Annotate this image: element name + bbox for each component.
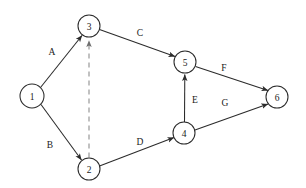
edge-f-line	[196, 67, 269, 91]
node-4-label: 4	[182, 129, 187, 139]
edge-a-line	[41, 36, 83, 88]
edge-label-g: G	[222, 98, 229, 108]
edge-label-e: E	[192, 95, 198, 105]
network-diagram: 1 2 3 4 5 6	[0, 0, 306, 188]
edge-labels-layer: A B C D E F G	[47, 28, 229, 150]
node-3[interactable]: 3	[78, 15, 100, 37]
edge-label-f: F	[221, 63, 226, 73]
node-4[interactable]: 4	[173, 122, 195, 144]
node-6[interactable]: 6	[266, 86, 288, 108]
edge-label-d: D	[137, 137, 144, 147]
edge-label-a: A	[49, 47, 56, 57]
node-5[interactable]: 5	[174, 51, 196, 73]
network-diagram-canvas: 1 2 3 4 5 6	[0, 0, 306, 188]
edges-layer	[41, 30, 269, 167]
edge-g-line	[195, 104, 268, 130]
node-6-label: 6	[275, 93, 280, 103]
edge-label-c: C	[137, 28, 143, 38]
edge-b-line	[41, 105, 82, 161]
edge-label-b: B	[47, 140, 53, 150]
node-1-label: 1	[30, 92, 35, 102]
node-2[interactable]: 2	[78, 158, 100, 180]
node-3-label: 3	[87, 22, 92, 32]
node-1[interactable]: 1	[20, 84, 44, 108]
nodes-layer: 1 2 3 4 5 6	[20, 15, 288, 180]
node-5-label: 5	[183, 58, 188, 68]
node-2-label: 2	[87, 165, 92, 175]
